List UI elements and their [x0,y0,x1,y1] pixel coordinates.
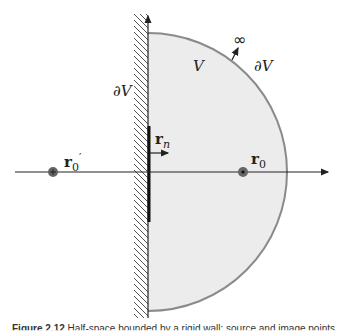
normal-vector-label: rn [155,132,170,150]
image-point-label: r0′ [64,152,81,173]
normal-vector-subscript: n [163,138,170,151]
normal-vector-symbol: r [155,130,163,148]
boundary-label-right: ∂V [254,59,273,74]
volume-label: V [193,59,204,74]
image-point-prime: ′ [79,151,82,164]
source-point-marker [238,167,248,177]
source-point-subscript: 0 [259,158,266,171]
image-point-subscript: 0 [72,161,79,174]
infinity-label: ∞ [233,32,246,48]
rigid-wall-hatching [134,14,148,318]
half-space-diagram [0,0,342,335]
image-point-marker [48,167,58,177]
source-point-label: r0 [251,152,266,170]
infinity-arrow [232,48,238,60]
boundary-label-left: ∂V [113,84,132,99]
image-point-symbol: r [64,153,72,171]
source-point-symbol: r [251,150,259,168]
